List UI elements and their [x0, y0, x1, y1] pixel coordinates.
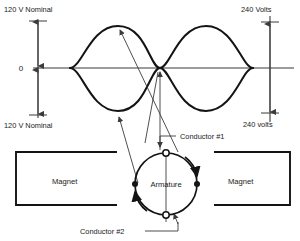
diagram-root: 0 120 V Nominal 120 V Nominal 240 Volts … [0, 0, 300, 241]
waveform-conductor-1 [70, 26, 253, 68]
leader-conductor-2 [145, 222, 178, 231]
pointer-crossing-diagonal [145, 72, 158, 143]
label-magnet-right: Magnet [228, 177, 254, 186]
label-conductor-1: Conductor #1 [180, 132, 224, 141]
pointer-conductor1-to-positive-peak [120, 30, 178, 152]
armature-terminal-top [163, 150, 169, 156]
waveform-conductor-2 [70, 68, 253, 111]
label-magnet-left: Magnet [52, 177, 78, 186]
label-bottom-right-amplitude: 240 volts [243, 120, 273, 129]
label-bottom-left-amplitude: 120 V Nominal [4, 121, 53, 130]
label-armature: Armature [150, 180, 181, 189]
label-top-left-amplitude: 120 V Nominal [4, 5, 53, 14]
armature-terminal-right [194, 181, 200, 187]
leader-conductor-2-arrow [174, 214, 178, 224]
pointer-conductor2-to-negative-trough [119, 117, 138, 183]
armature-terminal-bottom [163, 212, 169, 218]
zero-label: 0 [19, 64, 24, 73]
armature-terminal-left [132, 181, 138, 187]
label-top-right-amplitude: 240 Volts [241, 5, 272, 14]
alternator-diagram: 0 120 V Nominal 120 V Nominal 240 Volts … [0, 0, 300, 241]
label-conductor-2: Conductor #2 [80, 227, 124, 236]
